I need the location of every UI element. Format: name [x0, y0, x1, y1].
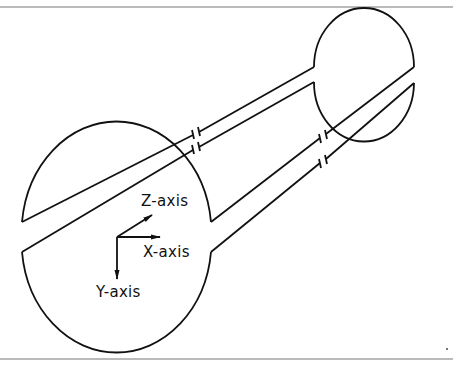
break-mark-4	[319, 155, 327, 168]
break-mark-1	[192, 127, 200, 139]
link-line-4a	[211, 163, 320, 252]
y-axis-label: Y-axis	[96, 283, 141, 301]
link-line-3a	[211, 138, 320, 222]
diagram-graphic	[0, 0, 453, 369]
stray-dot	[446, 348, 448, 350]
z-axis-label: Z-axis	[141, 192, 188, 210]
break-mark-2	[192, 142, 200, 154]
break-mark-3	[319, 130, 327, 143]
diagram-canvas: Z-axis X-axis Y-axis	[0, 0, 453, 369]
small-body-upper-arc	[314, 8, 414, 67]
link-line-2b	[199, 82, 314, 147]
link-line-3b	[326, 67, 414, 134]
z-axis-arrow	[117, 215, 152, 237]
link-line-1b	[199, 67, 314, 132]
x-axis-label: X-axis	[143, 243, 190, 261]
